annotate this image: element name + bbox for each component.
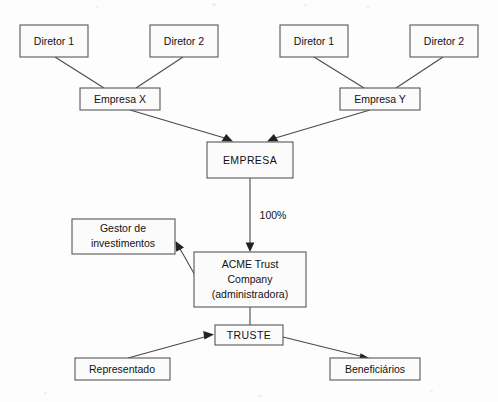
node-beneficiarios-label: Beneficiários: [345, 363, 405, 375]
node-representado[interactable]: Representado: [75, 358, 170, 380]
edge-empresa-y-empresa: [267, 110, 370, 142]
node-empresa-y[interactable]: Empresa Y: [340, 88, 420, 110]
diagram-canvas: Diretor 1 Diretor 2 Diretor 1 Diretor 2 …: [0, 0, 498, 402]
node-diretor-1-left-label: Diretor 1: [34, 35, 74, 47]
node-representado-label: Representado: [89, 363, 155, 375]
edge-diretor-x2-empresa-x: [136, 57, 183, 88]
node-gestor-line-2: investimentos: [91, 237, 155, 249]
node-empresa[interactable]: EMPRESA: [207, 142, 293, 178]
trust-structure-diagram: Diretor 1 Diretor 2 Diretor 1 Diretor 2 …: [0, 0, 498, 402]
node-diretor-2-left-label: Diretor 2: [164, 35, 204, 47]
edge-diretor-x1-empresa-x: [55, 57, 104, 88]
node-acme-line-2: Company: [228, 273, 274, 285]
node-diretor-2-right-label: Diretor 2: [424, 35, 464, 47]
node-beneficiarios[interactable]: Beneficiários: [330, 358, 420, 380]
node-acme-line-1: ACME Trust: [222, 258, 279, 270]
node-gestor-investimentos[interactable]: Gestor de investimentos: [72, 219, 175, 254]
edge-representado-truste: [128, 331, 214, 358]
node-truste[interactable]: TRUSTE: [215, 325, 283, 345]
node-empresa-label: EMPRESA: [223, 154, 277, 166]
node-diretor-1-right[interactable]: Diretor 1: [280, 25, 348, 57]
node-diretor-2-left[interactable]: Diretor 2: [150, 25, 218, 57]
ownership-percent-label: 100%: [260, 209, 287, 221]
node-diretor-1-left[interactable]: Diretor 1: [20, 25, 88, 57]
node-diretor-1-right-label: Diretor 1: [294, 35, 334, 47]
node-acme-trust-company[interactable]: ACME Trust Company (administradora): [194, 252, 306, 307]
edge-empresa-x-empresa: [130, 110, 233, 142]
node-empresa-x-label: Empresa X: [94, 93, 146, 105]
node-acme-line-3: (administradora): [212, 288, 288, 300]
edge-empresa-acme: [246, 178, 255, 252]
node-empresa-y-label: Empresa Y: [354, 93, 406, 105]
node-empresa-x[interactable]: Empresa X: [80, 88, 160, 110]
edge-diretor-y1-empresa-y: [314, 57, 364, 88]
edge-diretor-y2-empresa-y: [396, 57, 443, 88]
node-gestor-line-1: Gestor de: [100, 222, 146, 234]
edge-acme-gestor: [176, 241, 197, 277]
node-diretor-2-right[interactable]: Diretor 2: [410, 25, 478, 57]
node-truste-label: TRUSTE: [227, 329, 271, 341]
